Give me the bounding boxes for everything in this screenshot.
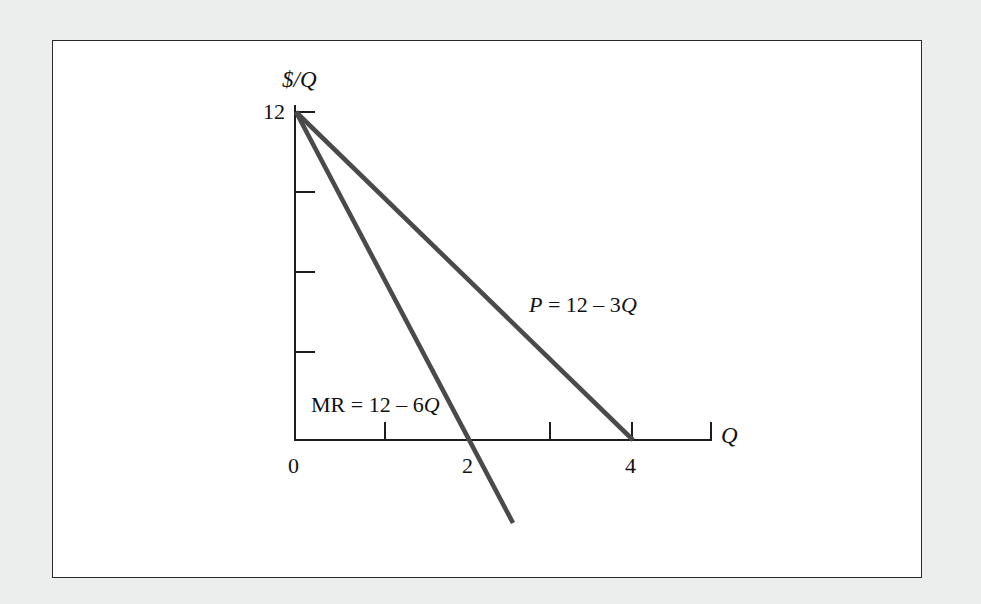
x-tick-label-2: 2: [462, 455, 473, 477]
y-tick-label-12: 12: [263, 101, 285, 123]
plot-canvas: [0, 0, 981, 604]
demand-label-prefix: P: [529, 292, 542, 317]
x-axis-title: Q: [721, 424, 738, 447]
y-axis-title: $/Q: [282, 68, 317, 91]
marginal-revenue-curve-label: MR = 12 – 6Q: [311, 394, 440, 416]
marginal-revenue-curve-line: [296, 112, 513, 523]
x-tick-label-0: 0: [288, 455, 299, 477]
demand-label-suffix: Q: [621, 292, 637, 317]
demand-label-body: = 12 – 3: [542, 292, 620, 317]
x-tick-label-4: 4: [625, 455, 636, 477]
mr-label-prefix: MR: [311, 392, 345, 417]
demand-curve-line: [296, 112, 633, 440]
demand-curve-label: P = 12 – 3Q: [529, 294, 637, 316]
mr-label-body: = 12 – 6: [345, 392, 423, 417]
mr-label-suffix: Q: [424, 392, 440, 417]
